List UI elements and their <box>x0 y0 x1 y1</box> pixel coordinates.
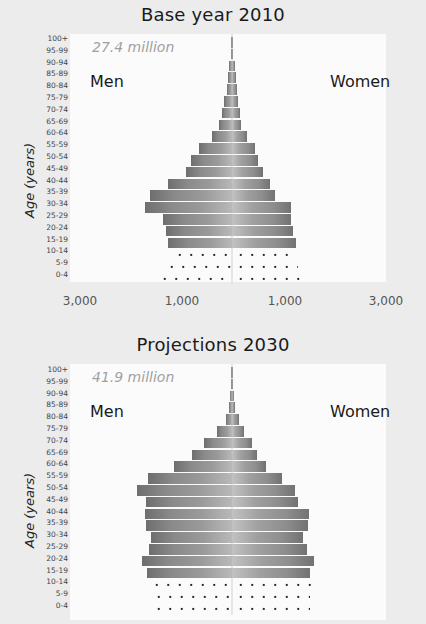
bar-men <box>192 450 232 461</box>
bar-men <box>151 532 232 543</box>
bar-men <box>166 226 232 237</box>
bar-men <box>174 461 232 472</box>
bar-women <box>232 367 233 378</box>
age-label: 65-69 <box>46 448 68 458</box>
bar-men <box>224 96 232 107</box>
bar-men <box>147 568 232 579</box>
age-label: 70-74 <box>46 436 68 446</box>
bar-women <box>232 426 244 437</box>
bar-women <box>232 72 236 83</box>
age-label: 5-9 <box>56 589 68 599</box>
bar-women <box>232 379 233 390</box>
bar-women <box>232 190 275 201</box>
age-label: 75-79 <box>46 424 68 434</box>
bar-men <box>199 143 232 154</box>
bar-women <box>232 568 310 579</box>
bar-women <box>232 49 233 60</box>
bar-women <box>232 556 314 567</box>
bar-women <box>232 544 307 555</box>
bar-women <box>232 167 263 178</box>
bar-women <box>232 391 234 402</box>
age-label: 50-54 <box>46 483 68 493</box>
chart-title: Base year 2010 <box>0 4 426 25</box>
age-label: 85-89 <box>46 400 68 410</box>
age-label: 80-84 <box>46 81 68 91</box>
bar-women <box>232 120 241 131</box>
bar-men <box>146 497 232 508</box>
bar-men <box>150 591 232 602</box>
x-tick: 1,000 <box>165 294 199 308</box>
y-axis-title: Age (years) <box>22 143 37 218</box>
bar-men <box>222 108 232 119</box>
bar-women <box>232 261 298 272</box>
bar-men <box>168 238 232 249</box>
bar-men <box>150 190 232 201</box>
x-tick: 1,000 <box>268 294 302 308</box>
age-label: 85-89 <box>46 69 68 79</box>
bar-women <box>232 238 296 249</box>
age-label: 0-4 <box>56 601 68 611</box>
age-label: 90-94 <box>46 58 68 68</box>
bar-women <box>232 532 303 543</box>
bar-women <box>232 461 266 472</box>
bar-women <box>232 214 291 225</box>
age-label: 50-54 <box>46 152 68 162</box>
age-label: 5-9 <box>56 258 68 268</box>
bar-women <box>232 131 247 142</box>
age-label: 35-39 <box>46 187 68 197</box>
bar-men <box>204 438 232 449</box>
bar-men <box>163 214 232 225</box>
age-label: 45-49 <box>46 495 68 505</box>
bar-men <box>212 131 232 142</box>
bar-men <box>146 520 232 531</box>
age-label: 25-29 <box>46 542 68 552</box>
bar-men <box>145 202 232 213</box>
bar-women <box>232 485 295 496</box>
age-label: 25-29 <box>46 211 68 221</box>
bar-women <box>232 438 252 449</box>
bar-men <box>148 473 232 484</box>
total-population: 27.4 million <box>92 39 174 55</box>
bar-men <box>137 485 232 496</box>
bar-women <box>232 450 257 461</box>
bar-women <box>232 414 239 425</box>
plot-area: 41.9 million Men Women <box>70 364 386 620</box>
bar-women <box>232 497 298 508</box>
y-axis-title: Age (years) <box>22 473 37 548</box>
age-label: 65-69 <box>46 117 68 127</box>
plot-area: 27.4 million Men Women <box>70 34 386 282</box>
age-label: 60-64 <box>46 128 68 138</box>
bar-men <box>186 167 232 178</box>
men-label: Men <box>90 72 124 91</box>
age-label: 40-44 <box>46 176 68 186</box>
bar-women <box>232 273 306 284</box>
age-label: 10-14 <box>46 577 68 587</box>
bar-men <box>142 556 232 567</box>
bar-men <box>149 544 232 555</box>
age-label: 35-39 <box>46 518 68 528</box>
age-label: 100+ <box>47 34 68 44</box>
bar-women <box>232 579 312 590</box>
chart-2010: Base year 2010 27.4 million Men Women 10… <box>0 0 426 320</box>
bar-women <box>232 520 308 531</box>
bar-men <box>150 603 232 614</box>
age-label: 40-44 <box>46 507 68 517</box>
age-label: 20-24 <box>46 223 68 233</box>
bar-women <box>232 37 233 48</box>
age-label: 55-59 <box>46 140 68 150</box>
bar-men <box>219 120 232 131</box>
bar-women <box>232 61 235 72</box>
bar-men <box>168 179 232 190</box>
bar-women <box>232 509 309 520</box>
total-population: 41.9 million <box>92 369 174 385</box>
x-tick: 3,000 <box>63 294 97 308</box>
x-tick: 3,000 <box>369 294 403 308</box>
age-label: 15-19 <box>46 235 68 245</box>
bar-women <box>232 179 270 190</box>
age-label: 90-94 <box>46 389 68 399</box>
age-label: 0-4 <box>56 270 68 280</box>
bar-women <box>232 155 258 166</box>
bar-women <box>232 202 291 213</box>
age-label: 95-99 <box>46 377 68 387</box>
bar-women <box>232 108 240 119</box>
